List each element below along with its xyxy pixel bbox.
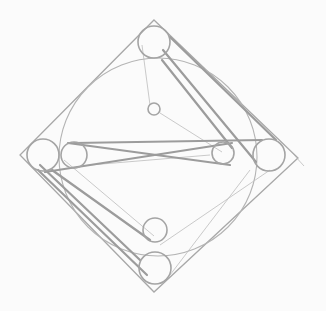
diagram-canvas: [0, 0, 326, 311]
belt-left-outer-to-bottom: [38, 170, 147, 275]
belt-left-to-right-upper: [74, 140, 262, 143]
left-pulley: [27, 139, 59, 171]
right-pulley: [253, 139, 285, 171]
bottom-pulley: [139, 252, 171, 284]
guide-line-right-to-bottom-a: [160, 170, 270, 245]
left-inner-pulley: [61, 142, 87, 168]
guide-line-left-to-bottom: [64, 160, 154, 236]
extension-line: [285, 145, 304, 166]
center-small-circle: [148, 103, 160, 115]
belt-left-to-bottom-long: [40, 165, 140, 260]
guide-line-right-to-bottom-b: [170, 170, 250, 275]
geometry-diagram: [0, 0, 326, 311]
belt-top-inner: [162, 60, 232, 148]
inscribed-circle: [59, 58, 257, 256]
top-pulley: [138, 26, 170, 58]
